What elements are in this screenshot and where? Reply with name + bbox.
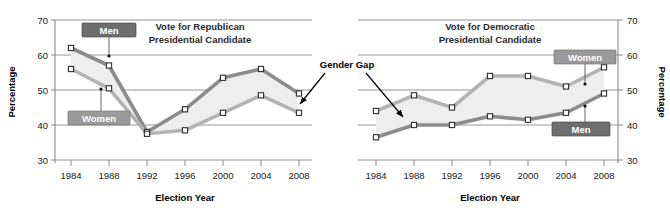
data-point-marker [106,63,111,68]
data-point-marker [258,66,263,71]
data-point-marker [182,128,187,133]
x-tick-label: 2004 [250,170,271,181]
data-point-marker [449,105,454,110]
series-tag-label: Women [568,52,602,63]
data-point-marker [563,84,568,89]
x-tick-label: 2000 [517,170,538,181]
data-point-marker [182,107,187,112]
data-point-marker [525,117,530,122]
x-axis-democratic: 1984 1988 1992 1996 2000 2004 2008 [365,160,614,181]
data-point-marker [68,45,73,50]
x-tick-label: 1988 [98,170,119,181]
data-point-marker [563,110,568,115]
data-point-marker [106,86,111,91]
y-tick-label: 40 [627,120,638,131]
y-tick-label: 60 [37,50,48,61]
series-tag-label: Men [100,25,119,36]
chart-panel-democratic: 70 60 50 40 30 Percentage 1984 1988 1992… [340,0,670,213]
chart-title-republican-line2: Presidential Candidate [149,34,251,45]
republican-chart-svg: 70 60 50 40 30 Percentage 1984 1988 1992 [0,0,330,213]
data-point-marker [601,65,606,70]
data-point-marker [296,110,301,115]
x-tick-label: 2004 [555,170,576,181]
x-tick-label: 1992 [441,170,462,181]
y-tick-label: 70 [37,15,48,26]
series-tag-label: Women [82,113,116,124]
chart-title-democratic-line2: Presidential Candidate [439,34,541,45]
y-axis-republican: 70 60 50 40 30 [37,15,55,166]
data-point-marker [220,75,225,80]
x-axis-title-democratic: Election Year [460,192,520,203]
chart-title-democratic-line1: Vote for Democratic [445,21,535,32]
data-point-marker [220,110,225,115]
y-tick-label: 60 [627,50,638,61]
y-axis-democratic: 70 60 50 40 30 [618,15,638,166]
y-tick-label: 30 [627,155,638,166]
data-point-marker [144,131,149,136]
democratic-chart-svg: 70 60 50 40 30 Percentage 1984 1988 1992… [340,0,670,213]
x-tick-label: 1984 [60,170,81,181]
data-point-marker [411,122,416,127]
x-tick-label: 2000 [212,170,233,181]
y-axis-title-republican: Percentage [6,66,17,117]
x-tick-label: 1984 [365,170,386,181]
data-point-marker [449,122,454,127]
data-point-marker [373,108,378,113]
series-tag-label: Men [572,124,591,135]
data-point-marker [487,73,492,78]
y-tick-label: 70 [627,15,638,26]
x-tick-label: 1996 [174,170,195,181]
y-tick-label: 50 [627,85,638,96]
y-axis-title-democratic: Percentage [657,66,668,117]
x-tick-label: 2008 [288,170,309,181]
x-tick-label: 1988 [403,170,424,181]
figure-root: 70 60 50 40 30 Percentage 1984 1988 1992 [0,0,670,213]
chart-panel-republican: 70 60 50 40 30 Percentage 1984 1988 1992 [0,0,330,213]
data-point-marker [68,66,73,71]
data-point-marker [373,135,378,140]
data-point-marker [601,91,606,96]
data-point-marker [487,114,492,119]
series-tag-men-republican[interactable]: Men [82,23,136,58]
data-point-marker [258,93,263,98]
x-axis-republican: 1984 1988 1992 1996 2000 2004 2008 [60,160,309,181]
x-tick-label: 1992 [136,170,157,181]
x-tick-label: 1996 [479,170,500,181]
x-tick-label: 2008 [593,170,614,181]
data-point-marker [411,93,416,98]
chart-title-republican-line1: Vote for Republican [155,21,244,32]
y-tick-label: 30 [37,155,48,166]
x-axis-title-republican: Election Year [155,192,215,203]
y-tick-label: 40 [37,120,48,131]
data-point-marker [296,91,301,96]
y-tick-label: 50 [37,85,48,96]
data-point-marker [525,73,530,78]
